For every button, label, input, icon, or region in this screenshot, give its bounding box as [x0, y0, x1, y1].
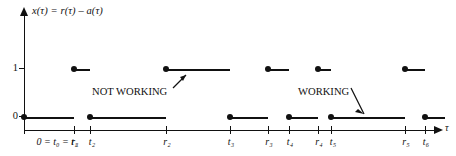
- step-segment: [24, 117, 74, 119]
- step-segment: [331, 117, 405, 119]
- x-tick-label-t6: t₆: [423, 136, 429, 147]
- step-start-dot: [422, 114, 428, 120]
- x-tick-mark-r4: [318, 126, 319, 134]
- x-tick-mark-r2: [166, 126, 167, 134]
- y-tick-mark-1: [19, 68, 25, 69]
- step-segment: [90, 117, 166, 119]
- x-axis-arrow-icon: [434, 126, 443, 134]
- annotation-working: WORKING: [298, 86, 349, 97]
- x-axis-label: τ: [445, 122, 449, 133]
- not-working-leader-line: [0, 0, 456, 156]
- x-tick-label-r1: r₁: [71, 136, 78, 147]
- step-start-dot: [163, 66, 169, 72]
- x-tick-label-t5: t₅: [330, 136, 336, 147]
- x-tick-mark-r5: [405, 126, 406, 134]
- step-segment: [268, 69, 289, 71]
- step-segment: [166, 69, 230, 71]
- step-start-dot: [286, 114, 292, 120]
- x-tick-label-t2: t₂: [89, 136, 95, 147]
- step-start-dot: [21, 114, 27, 120]
- x-tick-mark-t4: [289, 126, 290, 134]
- y-tick-label-0: 0: [4, 110, 18, 121]
- x-tick-mark-r3: [268, 126, 269, 134]
- y-axis-arrow-icon: [20, 7, 28, 16]
- x-tick-label-t4: t₄: [287, 136, 293, 147]
- step-start-dot: [265, 66, 271, 72]
- x-tick-mark-t6: [425, 126, 426, 134]
- x-tick-label-r3: r₃: [265, 136, 272, 147]
- step-start-dot: [71, 66, 77, 72]
- figure-container: x(τ) = r(τ) – a(τ) τ 1 0 0 = t₀ = t₁ r₁ …: [0, 0, 456, 156]
- step-start-dot: [87, 114, 93, 120]
- x-tick-label-r5: r₅: [402, 136, 409, 147]
- x-tick-mark-r1: [74, 126, 75, 134]
- y-axis-label: x(τ) = r(τ) – a(τ): [32, 5, 103, 16]
- x-tick-label-r2: r₂: [163, 136, 170, 147]
- step-start-dot: [315, 66, 321, 72]
- step-start-dot: [402, 66, 408, 72]
- annotation-not-working: NOT WORKING: [92, 86, 167, 97]
- x-tick-mark-t5: [331, 126, 332, 134]
- x-tick-mark-t3: [230, 126, 231, 134]
- step-segment: [230, 117, 268, 119]
- step-segment: [289, 117, 318, 119]
- working-leader-line: [0, 0, 456, 156]
- x-tick-mark-t0t1: [24, 126, 25, 134]
- step-start-dot: [227, 114, 233, 120]
- x-tick-mark-t2: [90, 126, 91, 134]
- y-tick-label-1: 1: [4, 62, 18, 73]
- step-start-dot: [328, 114, 334, 120]
- x-tick-label-t3: t₃: [228, 136, 234, 147]
- step-segment: [425, 117, 445, 119]
- step-segment: [405, 69, 425, 71]
- x-tick-label-r4: r₄: [315, 136, 322, 147]
